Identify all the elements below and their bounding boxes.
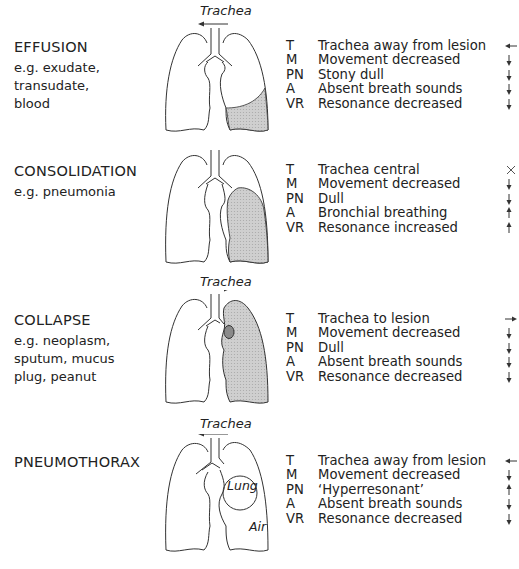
panel-consolidation: CONSOLIDATION e.g. pneumonia T Trachea c… [0,140,519,280]
arrow-down-icon [502,355,516,369]
sign-abbr: VR [286,97,304,111]
sign-text: Absent breath sounds [318,355,462,369]
arrow-down-icon [502,341,516,355]
sign-text: Stony dull [318,68,384,82]
sign-text: Resonance decreased [318,97,462,111]
sign-abbr: PN [286,68,304,82]
lungs-pneumothorax-illustration [150,434,270,564]
trachea-label: Trachea [200,416,252,431]
condition-title: COLLAPSE [14,312,91,328]
trachea-shift-left-arrow-icon [198,434,228,437]
lungs-collapse-illustration [158,290,278,414]
example-line: blood [14,95,100,113]
sign-abbr: A [286,206,295,220]
sign-text: Dull [318,192,344,206]
sign-text: Trachea to lesion [318,312,430,326]
trachea-shift-left-arrow-icon [198,22,228,27]
obstructing-mass [224,326,234,339]
panel-collapse: COLLAPSE e.g. neoplasm, sputum, mucus pl… [0,280,519,420]
condition-title: EFFUSION [14,39,88,55]
example-line: plug, peanut [14,368,115,386]
arrow-right-icon [504,312,518,326]
panel-pneumothorax: PNEUMOTHORAX Trachea Lung Air T Trachea … [0,420,519,569]
arrow-down-icon [502,370,516,384]
sign-abbr: M [286,53,297,67]
arrow-down-icon [502,468,516,482]
sign-text: Trachea away from lesion [318,39,486,53]
condition-examples: e.g. neoplasm, sputum, mucus plug, peanu… [14,332,115,386]
condition-title: CONSOLIDATION [14,163,137,179]
sign-abbr: T [286,39,294,53]
example-line: e.g. neoplasm, [14,332,115,350]
sign-abbr: A [286,355,295,369]
sign-text: ‘Hyperresonant’ [318,483,424,497]
sign-abbr: M [286,177,297,191]
sign-abbr: A [286,497,295,511]
trachea-shift-right-arrow-icon [200,290,230,292]
arrow-down-icon [502,82,516,96]
sign-abbr: T [286,312,294,326]
trachea-label: Trachea [200,3,252,18]
arrow-down-icon [502,497,516,511]
example-line: sputum, mucus [14,350,115,368]
sign-text: Movement decreased [318,468,460,482]
sign-abbr: M [286,468,297,482]
sign-text: Movement decreased [318,326,460,340]
arrow-down-icon [502,177,516,191]
sign-text: Trachea away from lesion [318,454,486,468]
arrow-down-icon [502,326,516,340]
arrow-left-icon [504,39,518,53]
arrow-down-icon [502,97,516,111]
sign-text: Bronchial breathing [318,206,447,220]
lungs-effusion-illustration [158,18,278,138]
arrow-down-icon [502,53,516,67]
sign-text: Resonance increased [318,221,458,235]
panel-effusion: EFFUSION e.g. exudate, transudate, blood… [0,0,519,140]
arrow-down-icon [502,512,516,526]
condition-examples: e.g. pneumonia [14,183,116,201]
trachea-label: Trachea [200,274,252,289]
arrow-up-icon [502,206,516,220]
sign-text: Absent breath sounds [318,82,462,96]
sign-text: Resonance decreased [318,512,462,526]
sign-abbr: T [286,163,294,177]
sign-text: Movement decreased [318,53,460,67]
air-inner-label: Air [249,519,266,534]
sign-abbr: PN [286,483,304,497]
arrow-up-icon [502,221,516,235]
sign-text: Movement decreased [318,177,460,191]
arrow-left-icon [504,454,518,468]
sign-text: Trachea central [318,163,420,177]
sign-abbr: PN [286,341,304,355]
lung-inner-label: Lung [227,478,258,493]
sign-abbr: VR [286,512,304,526]
sign-abbr: VR [286,221,304,235]
sign-abbr: M [286,326,297,340]
sign-abbr: T [286,454,294,468]
sign-text: Absent breath sounds [318,497,462,511]
condition-title: PNEUMOTHORAX [14,454,140,470]
cross-icon [504,163,518,177]
sign-abbr: A [286,82,295,96]
arrow-down-icon [502,68,516,82]
sign-text: Resonance decreased [318,370,462,384]
sign-text: Dull [318,341,344,355]
sign-abbr: PN [286,192,304,206]
example-line: e.g. exudate, [14,59,100,77]
sign-abbr: VR [286,370,304,384]
arrow-up-icon [502,483,516,497]
arrow-down-icon [502,192,516,206]
lungs-consolidation-illustration [158,150,278,274]
condition-examples: e.g. exudate, transudate, blood [14,59,100,113]
example-line: transudate, [14,77,100,95]
example-line: e.g. pneumonia [14,183,116,201]
